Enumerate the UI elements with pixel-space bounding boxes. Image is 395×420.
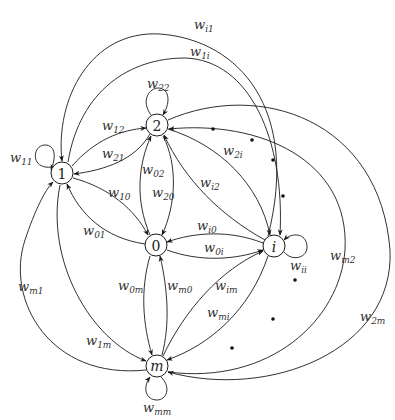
self-loop-i xyxy=(284,235,307,258)
label-w-21: w21 xyxy=(102,146,125,163)
svg-text:0: 0 xyxy=(152,238,161,254)
node-m: m xyxy=(146,355,168,377)
label-w-10: w10 xyxy=(108,185,131,202)
label-w-0i: w0i xyxy=(204,240,224,257)
label-w-0m: w0m xyxy=(118,278,143,295)
node-i: i xyxy=(263,235,285,257)
edge-m-to-1 xyxy=(20,182,146,371)
label-w-01: w01 xyxy=(83,223,106,240)
node-1: 1 xyxy=(51,162,73,184)
label-w-im: wim xyxy=(215,278,238,295)
edge-m-to-0 xyxy=(160,256,167,355)
label-w-m0: wm0 xyxy=(167,278,193,295)
label-w-i0: wi0 xyxy=(197,218,217,235)
label-w-20: w20 xyxy=(152,185,175,202)
label-w-2m: w2m xyxy=(360,309,385,326)
label-w-mm: wmm xyxy=(143,400,171,417)
edge-0-to-m xyxy=(144,256,152,355)
self-loop-1 xyxy=(35,145,54,170)
label-w-02: w02 xyxy=(142,162,165,179)
edge-m-to-2 xyxy=(168,128,345,374)
svg-text:1: 1 xyxy=(58,166,67,182)
label-w-2i: w2i xyxy=(223,143,243,160)
label-w-22: w22 xyxy=(147,76,170,93)
edge-1-to-i xyxy=(68,58,280,235)
label-w-11: w11 xyxy=(10,150,33,167)
label-w-12: w12 xyxy=(102,118,125,135)
self-loop-m xyxy=(146,377,167,400)
svg-text:2: 2 xyxy=(153,118,162,134)
markov-transition-graph: 1 2 0 i m wi1 w1i w22 w11 w12 w21 w10 w0… xyxy=(0,0,395,420)
edge-1-to-m xyxy=(57,185,146,361)
label-w-i2: wi2 xyxy=(200,175,220,192)
label-w-mi: wmi xyxy=(207,305,230,322)
node-2: 2 xyxy=(146,114,168,136)
label-w-ii: wii xyxy=(290,258,307,275)
edge-i-to-1 xyxy=(61,34,277,236)
label-w-m2: wm2 xyxy=(330,248,356,265)
edge-0-to-2 xyxy=(140,136,151,235)
label-w-i1: wi1 xyxy=(194,17,214,34)
svg-text:i: i xyxy=(272,239,276,255)
svg-text:m: m xyxy=(150,358,163,374)
node-0: 0 xyxy=(145,234,167,256)
label-w-m1: wm1 xyxy=(18,279,43,296)
edge-m-to-i xyxy=(163,251,263,356)
